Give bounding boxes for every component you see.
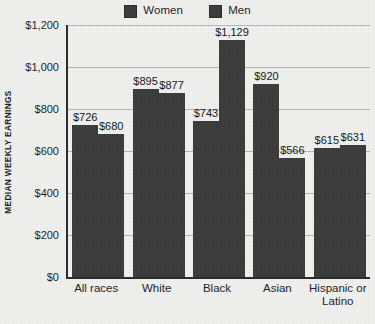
x-tick-label-line: Asian [263, 282, 292, 294]
x-tick-label-line: Latino [302, 295, 374, 308]
y-tick-label: $200 [0, 230, 59, 241]
bars-layer: $726$680$895$877$743$1,129$920$566$615$6… [68, 25, 370, 277]
bar-value-label: $566 [269, 145, 315, 156]
bar-value-label: $920 [243, 71, 289, 82]
x-tick-label-line: White [142, 282, 171, 294]
chart-legend: WomenMen [0, 2, 375, 20]
legend-label: Women [143, 5, 183, 17]
bar-women[interactable] [253, 84, 279, 277]
bar-women[interactable] [314, 148, 340, 277]
legend-swatch-icon [124, 5, 137, 18]
plot-area: $726$680$895$877$743$1,129$920$566$615$6… [66, 25, 370, 279]
bar-women[interactable] [193, 121, 219, 277]
bar-value-label: $631 [330, 132, 375, 143]
bar-chart: WomenMen MEDIAN WEEKLY EARNINGS $726$680… [0, 0, 375, 324]
x-tick-label-line: Hispanic or [309, 282, 367, 294]
x-axis-tick-labels: All racesWhiteBlackAsianHispanic orLatin… [66, 282, 368, 322]
y-tick-label: $800 [0, 104, 59, 115]
bar-men[interactable] [159, 93, 185, 277]
bar-value-label: $877 [149, 80, 195, 91]
bar-women[interactable] [133, 89, 159, 277]
legend-label: Men [228, 5, 251, 17]
bar-group: $743$1,129 [189, 25, 249, 277]
bar-group: $895$877 [128, 25, 188, 277]
bar-value-label: $680 [88, 121, 134, 132]
x-tick-label-line: All races [74, 282, 118, 294]
bar-group: $920$566 [249, 25, 309, 277]
y-tick-label: $0 [0, 272, 59, 283]
bar-men[interactable] [98, 134, 124, 277]
bar-group: $726$680 [68, 25, 128, 277]
y-tick-label: $400 [0, 188, 59, 199]
bar-men[interactable] [340, 145, 366, 278]
bar-men[interactable] [219, 40, 245, 277]
legend-entry-men[interactable]: Men [209, 5, 251, 18]
x-tick-label-line: Black [203, 282, 231, 294]
y-tick-label: $600 [0, 146, 59, 157]
x-tick-label: Hispanic orLatino [302, 282, 374, 308]
bar-group: $615$631 [310, 25, 370, 277]
legend-swatch-icon [209, 5, 222, 18]
bar-value-label: $1,129 [209, 27, 255, 38]
y-tick-label: $1,200 [0, 20, 59, 31]
bar-women[interactable] [72, 125, 98, 277]
legend-entry-women[interactable]: Women [124, 5, 183, 18]
bar-men[interactable] [279, 158, 305, 277]
y-tick-label: $1,000 [0, 62, 59, 73]
